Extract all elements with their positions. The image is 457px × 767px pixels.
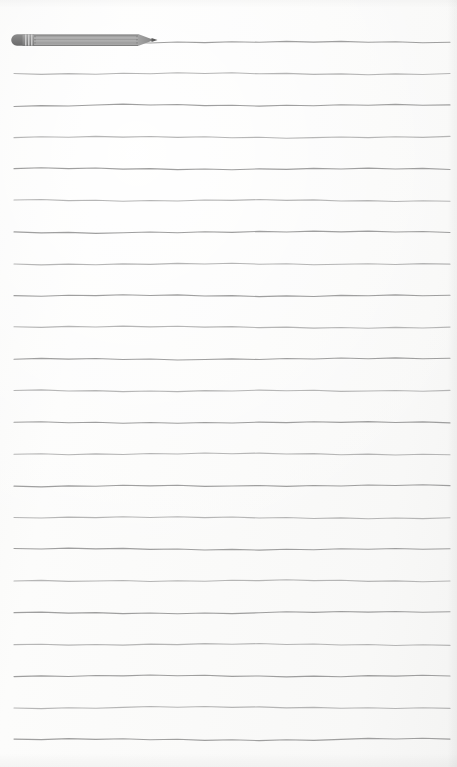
writing-line-7[interactable]	[14, 205, 450, 233]
writing-line-6[interactable]	[14, 174, 450, 202]
pencil-body-top-highlight	[34, 34, 138, 35]
writing-line-11[interactable]	[14, 332, 450, 360]
writing-line-4[interactable]	[14, 110, 450, 138]
writing-line-10[interactable]	[14, 300, 450, 328]
writing-line-23[interactable]	[14, 712, 450, 740]
pencil-body-groove	[36, 40, 136, 41]
writing-line-13[interactable]	[14, 395, 450, 423]
writing-line-17[interactable]	[14, 522, 450, 550]
writing-line-12[interactable]	[14, 364, 450, 392]
pencil-body-groove	[36, 37, 136, 38]
pencil-ferrule-band	[25, 34, 27, 45]
pencil-ferrule-band	[28, 34, 30, 45]
writing-line-3[interactable]	[14, 78, 450, 106]
pencil-ferrule-band	[31, 34, 33, 45]
pencil-icon[interactable]	[10, 31, 160, 49]
pencil-eraser	[11, 34, 23, 46]
writing-line-21[interactable]	[14, 649, 450, 677]
writing-line-5[interactable]	[14, 142, 450, 170]
writing-line-20[interactable]	[14, 617, 450, 645]
pencil-body-bottom-shadow	[34, 45, 138, 46]
writing-line-9[interactable]	[14, 269, 450, 297]
pencil-svg	[10, 31, 160, 49]
pencil-body-groove	[36, 43, 136, 44]
writing-line-15[interactable]	[14, 459, 450, 487]
writing-line-18[interactable]	[14, 554, 450, 582]
writing-line-22[interactable]	[14, 681, 450, 709]
writing-line-19[interactable]	[14, 586, 450, 614]
writing-line-8[interactable]	[14, 237, 450, 265]
writing-line-14[interactable]	[14, 427, 450, 455]
pencil-lead-tip	[152, 38, 158, 42]
writing-line-2[interactable]	[14, 47, 450, 75]
writing-line-16[interactable]	[14, 491, 450, 519]
notepad-page	[0, 0, 457, 767]
